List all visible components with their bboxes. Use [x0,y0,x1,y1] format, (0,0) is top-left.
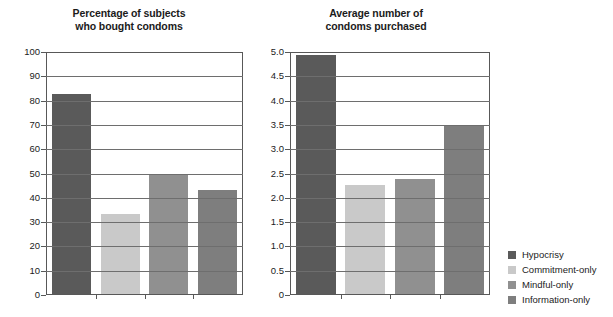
y-tick-mark [285,222,290,223]
gridline [290,174,490,175]
gridline [46,101,243,102]
gridline [290,149,490,150]
y-tick-mark [41,174,46,175]
y-tick-label-percentage-4: 40 [29,193,40,203]
y-tick-mark [285,271,290,272]
gridline [46,125,243,126]
y-tick-mark [41,76,46,77]
legend-swatch-icon [508,251,516,259]
x-tick-mark [96,294,97,299]
bar-average-0 [296,55,336,294]
y-tick-label-average-2: 1.0 [271,242,284,252]
bar-percentage-2 [149,174,188,295]
y-tick-mark [285,76,290,77]
y-tick-mark [41,271,46,272]
bar-average-3 [444,126,484,294]
gridline [290,101,490,102]
y-tick-label-percentage-3: 30 [29,217,40,227]
bar-percentage-3 [198,190,237,294]
x-tick-mark [193,294,194,299]
y-tick-mark [41,198,46,199]
y-tick-label-average-1: 0.5 [271,266,284,276]
legend-item-2: Mindful-only [508,277,613,292]
y-tick-mark [285,52,290,53]
legend-label: Information-only [522,295,590,305]
y-tick-label-percentage-2: 20 [29,242,40,252]
gridline [290,76,490,77]
y-tick-mark [41,246,46,247]
gridline [46,222,243,223]
legend-label: Hypocrisy [522,250,564,260]
y-tick-mark [41,149,46,150]
legend: HypocrisyCommitment-onlyMindful-onlyInfo… [508,247,613,307]
legend-item-0: Hypocrisy [508,247,613,262]
y-tick-mark [285,149,290,150]
gridline [46,198,243,199]
y-tick-label-average-0: 0 [279,290,284,300]
chart-panel-percentage: Percentage of subjects who bought condom… [0,0,258,317]
y-tick-label-average-8: 4.0 [271,96,284,106]
gridline [290,198,490,199]
y-tick-label-percentage-10: 100 [24,47,40,57]
gridline [290,222,490,223]
gridline [46,149,243,150]
chart-title-percentage: Percentage of subjects who bought condom… [0,7,258,33]
y-tick-mark [285,295,290,296]
y-tick-mark [285,174,290,175]
y-tick-mark [41,222,46,223]
y-tick-mark [41,101,46,102]
legend-label: Mindful-only [522,280,573,290]
y-tick-label-percentage-1: 10 [29,266,40,276]
legend-swatch-icon [508,266,516,274]
gridline [46,271,243,272]
y-tick-label-percentage-8: 80 [29,96,40,106]
legend-label: Commitment-only [522,265,596,275]
bar-average-2 [395,179,435,294]
y-tick-mark [41,125,46,126]
gridline [290,246,490,247]
gridline [46,246,243,247]
gridline [290,271,490,272]
y-tick-label-percentage-7: 70 [29,120,40,130]
legend-swatch-icon [508,281,516,289]
legend-item-3: Information-only [508,292,613,307]
x-tick-mark [390,294,391,299]
bar-average-1 [345,185,385,294]
y-tick-label-percentage-6: 60 [29,144,40,154]
y-tick-label-average-10: 5.0 [271,47,284,57]
y-tick-label-percentage-5: 50 [29,169,40,179]
chart-panel-average: Average number of condoms purchased 00.5… [252,0,500,317]
y-tick-mark [41,52,46,53]
bar-percentage-1 [101,214,140,294]
y-tick-label-average-3: 1.5 [271,217,284,227]
y-tick-label-average-5: 2.5 [271,169,284,179]
y-tick-label-average-4: 2.0 [271,193,284,203]
figure: Percentage of subjects who bought condom… [0,0,613,317]
y-tick-mark [285,125,290,126]
x-tick-mark [145,294,146,299]
y-tick-label-average-6: 3.0 [271,144,284,154]
legend-item-1: Commitment-only [508,262,613,277]
y-tick-mark [285,246,290,247]
x-tick-mark [341,294,342,299]
x-tick-mark [440,294,441,299]
y-tick-label-average-7: 3.5 [271,120,284,130]
plot-area-percentage: 0102030405060708090100 [46,52,243,295]
y-tick-mark [285,101,290,102]
plot-area-average: 00.51.01.52.02.53.03.54.04.55.0 [290,52,490,295]
gridline [46,174,243,175]
y-tick-mark [285,198,290,199]
y-tick-mark [41,295,46,296]
y-tick-label-percentage-0: 0 [35,290,40,300]
gridline [290,125,490,126]
gridline [46,76,243,77]
y-tick-label-percentage-9: 90 [29,72,40,82]
y-tick-label-average-9: 4.5 [271,72,284,82]
legend-swatch-icon [508,296,516,304]
chart-title-average: Average number of condoms purchased [252,7,500,33]
